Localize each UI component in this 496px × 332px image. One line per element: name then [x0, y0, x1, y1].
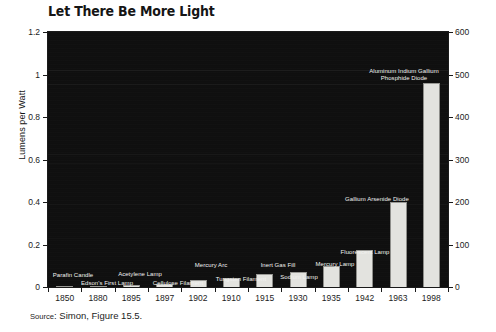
x-tick-label-1910: 1910 [222, 293, 241, 303]
x-tick [48, 288, 49, 292]
y-tick-left [43, 245, 47, 246]
y-tick-right [449, 202, 453, 203]
x-tick-label-1897: 1897 [155, 293, 174, 303]
y-tick-label-left: 0.2 [0, 240, 40, 250]
y-tick-left [43, 117, 47, 118]
y-tick-label-right: 200 [455, 197, 469, 207]
annotation-label: Mercury Lamp [316, 261, 355, 268]
x-tick-label-1963: 1963 [389, 293, 408, 303]
y-tick-label-right: 100 [455, 240, 469, 250]
x-tick-label-1850: 1850 [55, 293, 74, 303]
x-tick-label-1998: 1998 [422, 293, 441, 303]
annotation-label: Tungsten Filament [216, 276, 266, 283]
annotation-label: Gallium Arsenide Diode [345, 196, 409, 203]
bar-1935 [323, 266, 340, 287]
y-axis-left-line [47, 32, 48, 288]
x-tick [281, 288, 282, 292]
y-tick-right [449, 32, 453, 33]
x-tick-label-1935: 1935 [322, 293, 341, 303]
source-note: Source: Simon, Figure 15.5. [30, 310, 142, 321]
plot-area: Parafin CandleEdson's First LampAcetylen… [48, 32, 448, 287]
annotation-label: Aluminum Indium Gallium Phosphide Diode [361, 68, 447, 82]
chart-title: Let There Be More Light [48, 3, 215, 19]
y-tick-left [43, 160, 47, 161]
x-tick [315, 288, 316, 292]
y-tick-label-right: 400 [455, 112, 469, 122]
x-tick [415, 288, 416, 292]
source-prefix: Source [30, 312, 54, 321]
annotation-label: Fluorescent Lamp [341, 249, 390, 256]
y-tick-right [449, 117, 453, 118]
y-tick-right [449, 160, 453, 161]
y-tick-label-right: 300 [455, 155, 469, 165]
y-tick-label-right: 0 [455, 282, 460, 292]
y-tick-right [449, 287, 453, 288]
y-tick-left [43, 202, 47, 203]
x-tick-label-1915: 1915 [255, 293, 274, 303]
y-tick-label-left: 0.4 [0, 197, 40, 207]
x-tick [381, 288, 382, 292]
annotation-label: Mercury Arc [195, 262, 228, 269]
x-tick [181, 288, 182, 292]
annotation-label: Acetylene Lamp [118, 271, 162, 278]
bar-1998 [423, 83, 440, 287]
source-text: : Simon, Figure 15.5. [54, 310, 142, 321]
x-tick-label-1930: 1930 [289, 293, 308, 303]
x-tick [81, 288, 82, 292]
x-tick [448, 288, 449, 292]
annotation-label: Parafin Candle [53, 272, 93, 279]
y-tick-right [449, 75, 453, 76]
y-tick-label-left: 1.2 [0, 27, 40, 37]
y-tick-left [43, 287, 47, 288]
x-tick [148, 288, 149, 292]
x-tick-label-1895: 1895 [122, 293, 141, 303]
x-tick-label-1902: 1902 [189, 293, 208, 303]
x-tick [215, 288, 216, 292]
x-tick [115, 288, 116, 292]
x-tick [348, 288, 349, 292]
figure-container: Let There Be More Light Parafin CandleEd… [0, 0, 496, 332]
bar-1963 [390, 202, 407, 287]
x-tick-label-1942: 1942 [355, 293, 374, 303]
y-tick-label-right: 500 [455, 70, 469, 80]
y-tick-left [43, 32, 47, 33]
plot-top-border [47, 31, 449, 32]
x-tick [248, 288, 249, 292]
y-tick-left [43, 75, 47, 76]
annotation-label: Sodium Lamp [280, 274, 318, 281]
annotation-label: Cellulose Filament [153, 280, 203, 287]
annotation-label: Edson's First Lamp [81, 280, 133, 287]
y-tick-label-left: 0 [0, 282, 40, 292]
y-tick-label-right: 600 [455, 27, 469, 37]
y-tick-right [449, 245, 453, 246]
annotation-label: Inert Gas Fill [261, 262, 296, 269]
x-tick-label-1880: 1880 [89, 293, 108, 303]
y-axis-title: Lumens per Watt [17, 65, 27, 185]
